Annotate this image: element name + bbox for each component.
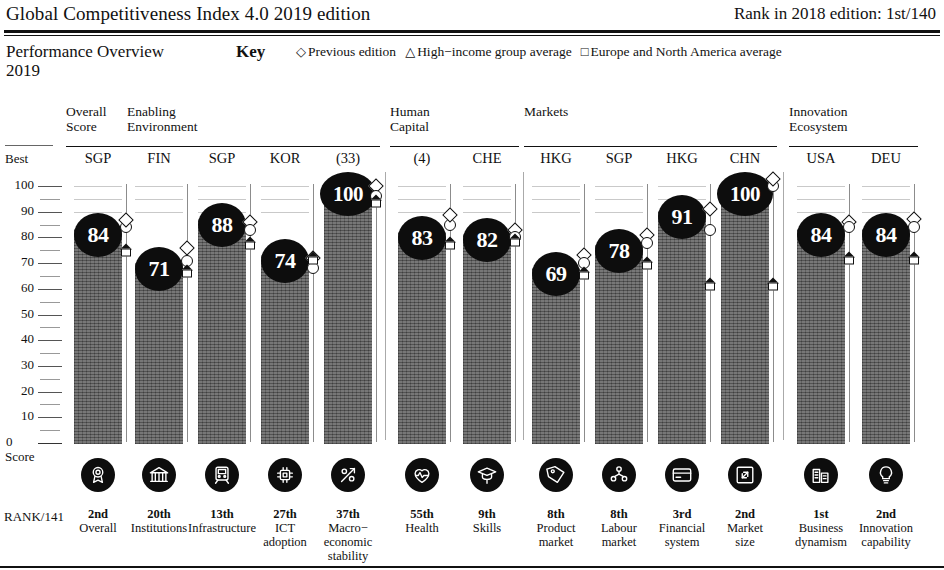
high-income-average-marker xyxy=(843,221,855,233)
score-bar[interactable] xyxy=(862,228,910,444)
section-title-line2: 2019 xyxy=(6,61,40,80)
rank-value: 2nd xyxy=(843,507,929,521)
header: Global Competitiveness Index 4.0 2019 ed… xyxy=(0,0,944,32)
faint-gridline xyxy=(198,186,246,187)
bar-column[interactable]: 91 xyxy=(658,170,706,444)
y-gridline-20 xyxy=(38,392,62,393)
score-bar[interactable] xyxy=(198,218,246,444)
bar-column[interactable]: 83 xyxy=(398,170,446,444)
price-tag-icon[interactable] xyxy=(539,458,573,492)
credit-card-icon[interactable] xyxy=(665,458,699,492)
header-divider-thick xyxy=(4,30,940,33)
europe-north-america-average-marker xyxy=(444,236,456,249)
best-label: Best xyxy=(5,151,28,167)
expand-icon[interactable] xyxy=(728,458,762,492)
square-icon xyxy=(642,262,652,270)
bar-column[interactable]: 82 xyxy=(463,170,511,444)
bar-column[interactable]: 84 xyxy=(74,170,122,444)
high-income-average-marker xyxy=(641,237,653,249)
europe-north-america-average-marker xyxy=(509,233,521,246)
best-performer-code: FIN xyxy=(123,150,195,167)
y-axis-tick-40: 40 xyxy=(6,331,34,347)
faint-gridline xyxy=(261,186,309,187)
rank-and-pillar-label: 2ndMarketsize xyxy=(702,507,788,549)
bar-column[interactable]: 100 xyxy=(721,170,769,444)
rank-value: 2nd xyxy=(702,507,788,521)
pillar-group-header: HumanCapital xyxy=(390,105,430,134)
group-header-line2: Capital xyxy=(390,120,430,135)
faint-gridline xyxy=(595,199,643,200)
zero-axis-line xyxy=(38,443,62,444)
bar-column[interactable]: 100 xyxy=(324,170,372,444)
bar-column[interactable]: 69 xyxy=(532,170,580,444)
bar-column[interactable]: 71 xyxy=(135,170,183,444)
legend-label-previous-edition: Previous edition xyxy=(308,44,396,59)
group-header-line1: Enabling xyxy=(127,105,198,120)
score-bar[interactable] xyxy=(74,228,122,444)
score-bar[interactable] xyxy=(398,231,446,444)
graduate-icon[interactable] xyxy=(470,458,504,492)
y-gridline-80 xyxy=(38,237,62,238)
train-icon[interactable] xyxy=(205,458,239,492)
faint-gridline xyxy=(198,199,246,200)
score-bar[interactable] xyxy=(324,187,372,444)
score-bar[interactable] xyxy=(658,210,706,444)
y-axis-tick-60: 60 xyxy=(6,280,34,296)
europe-north-america-average-marker xyxy=(641,257,653,270)
score-bubble: 91 xyxy=(658,195,706,239)
buildings-icon[interactable] xyxy=(804,458,838,492)
faint-gridline xyxy=(463,199,511,200)
pillar-group-header: OverallScore xyxy=(66,105,106,134)
group-header-line2: Ecosystem xyxy=(789,120,848,135)
europe-north-america-average-marker xyxy=(843,251,855,264)
y-gridline-minor xyxy=(40,199,60,200)
score-bubble: 71 xyxy=(135,247,183,291)
europe-north-america-average-marker xyxy=(704,277,716,290)
best-performer-code: USA xyxy=(785,150,857,167)
score-bar[interactable] xyxy=(721,187,769,444)
y-gridline-minor xyxy=(40,404,60,405)
y-gridline-minor xyxy=(40,327,60,328)
group-header-underline xyxy=(789,146,918,147)
best-performer-code: KOR xyxy=(249,150,321,167)
marker-guide-line xyxy=(187,184,188,442)
group-header-line1: Markets xyxy=(524,105,568,120)
key-label: Key xyxy=(236,42,265,62)
group-header-line2: Score xyxy=(66,120,106,135)
bar-column[interactable]: 74 xyxy=(261,170,309,444)
square-icon xyxy=(510,238,520,246)
faint-gridline xyxy=(463,212,511,213)
people-icon[interactable] xyxy=(602,458,636,492)
y-gridline-50 xyxy=(38,315,62,316)
chart-plot-area: 100908070605040302010 847188741008382697… xyxy=(0,170,944,450)
group-header-line2: Environment xyxy=(127,120,198,135)
bar-column[interactable]: 84 xyxy=(797,170,845,444)
group-header-line1: Innovation xyxy=(789,105,848,120)
square-icon xyxy=(308,256,318,264)
score-bar[interactable] xyxy=(797,228,845,444)
faint-gridline xyxy=(595,212,643,213)
y-gridline-minor xyxy=(40,276,60,277)
score-axis-label: Score xyxy=(5,449,35,465)
bulb-icon[interactable] xyxy=(869,458,903,492)
pillar-group-header: EnablingEnvironment xyxy=(127,105,198,134)
marker-guide-line xyxy=(647,184,648,442)
bank-icon[interactable] xyxy=(142,458,176,492)
high-income-average-marker xyxy=(908,221,920,233)
square-icon xyxy=(768,282,778,290)
score-bar[interactable] xyxy=(595,244,643,444)
percent-chart-icon[interactable] xyxy=(331,458,365,492)
legend-label-europe-north-america-average: Europe and North America average xyxy=(591,44,782,59)
score-bubble: 69 xyxy=(532,252,580,296)
y-gridline-minor xyxy=(40,250,60,251)
bar-column[interactable]: 88 xyxy=(198,170,246,444)
bar-column[interactable]: 78 xyxy=(595,170,643,444)
score-bar[interactable] xyxy=(463,233,511,444)
best-performer-code: (4) xyxy=(386,150,458,167)
faint-gridline xyxy=(74,199,122,200)
bar-column[interactable]: 84 xyxy=(862,170,910,444)
chip-icon[interactable] xyxy=(268,458,302,492)
award-icon[interactable] xyxy=(81,458,115,492)
square-icon xyxy=(182,269,192,277)
heart-pulse-icon[interactable] xyxy=(405,458,439,492)
